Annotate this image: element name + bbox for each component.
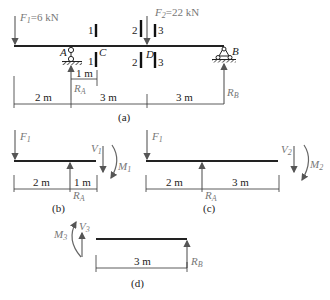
ra-label-c: RA (204, 189, 217, 203)
moment-m1-arrow (111, 145, 117, 178)
point-c-label: C (99, 46, 107, 58)
dim-3m-label-2: 3 m (176, 91, 193, 103)
beam-diagram: F1=6 kN F2=22 kN A B 1 1 C (0, 0, 330, 300)
dim-c-2m: 2 m (166, 176, 183, 188)
rb-label-d: RB (190, 255, 203, 269)
figure-d: V3 M3 RB 3 m (d) (53, 220, 203, 290)
f1-label-b: F1 (19, 130, 31, 144)
figure-b: F1 V1 M1 RA 2 m 1 m (b) (14, 130, 131, 215)
dim-b-1m: 1 m (74, 176, 91, 188)
f2-label: F2=22 kN (154, 6, 199, 20)
figure-a: F1=6 kN F2=22 kN A B 1 1 C (14, 6, 239, 124)
dim-d-3m: 3 m (134, 255, 151, 267)
section-3-label-bottom: 3 (158, 56, 164, 68)
caption-d: (d) (131, 277, 144, 290)
section-2-label-bottom: 2 (132, 56, 138, 68)
section-1-label-bottom: 1 (88, 55, 94, 67)
caption-b: (b) (52, 202, 65, 215)
m2-label: M2 (309, 158, 323, 172)
section-1-label-top: 1 (88, 24, 94, 36)
dim-1m-label: 1 m (76, 67, 93, 79)
support-a-label: A (59, 46, 67, 58)
m1-label: M1 (117, 160, 131, 174)
dim-b-2m: 2 m (33, 176, 50, 188)
support-b-label: B (232, 45, 239, 57)
ra-label-b: RA (72, 189, 85, 203)
dim-2m-label: 2 m (35, 91, 52, 103)
caption-a: (a) (118, 111, 131, 124)
dim-3m-label-1: 3 m (100, 91, 117, 103)
ra-label: RA (73, 82, 86, 96)
caption-c: (c) (203, 202, 216, 215)
m3-label: M3 (53, 228, 67, 242)
section-2-label-top: 2 (132, 24, 138, 36)
v3-label: V3 (79, 220, 90, 234)
figure-c: F1 V2 M2 RA 2 m 3 m (c) (146, 130, 323, 215)
moment-m2-arrow (302, 145, 309, 180)
v1-label: V1 (91, 142, 102, 156)
v2-label: V2 (281, 143, 292, 157)
point-d-label: D (145, 48, 154, 60)
dim-c-3m: 3 m (232, 176, 249, 188)
rb-label: RB (226, 86, 239, 100)
section-3-label-top: 3 (158, 24, 164, 36)
f1-label-c: F1 (151, 130, 163, 144)
f1-label: F1=6 kN (19, 11, 59, 25)
